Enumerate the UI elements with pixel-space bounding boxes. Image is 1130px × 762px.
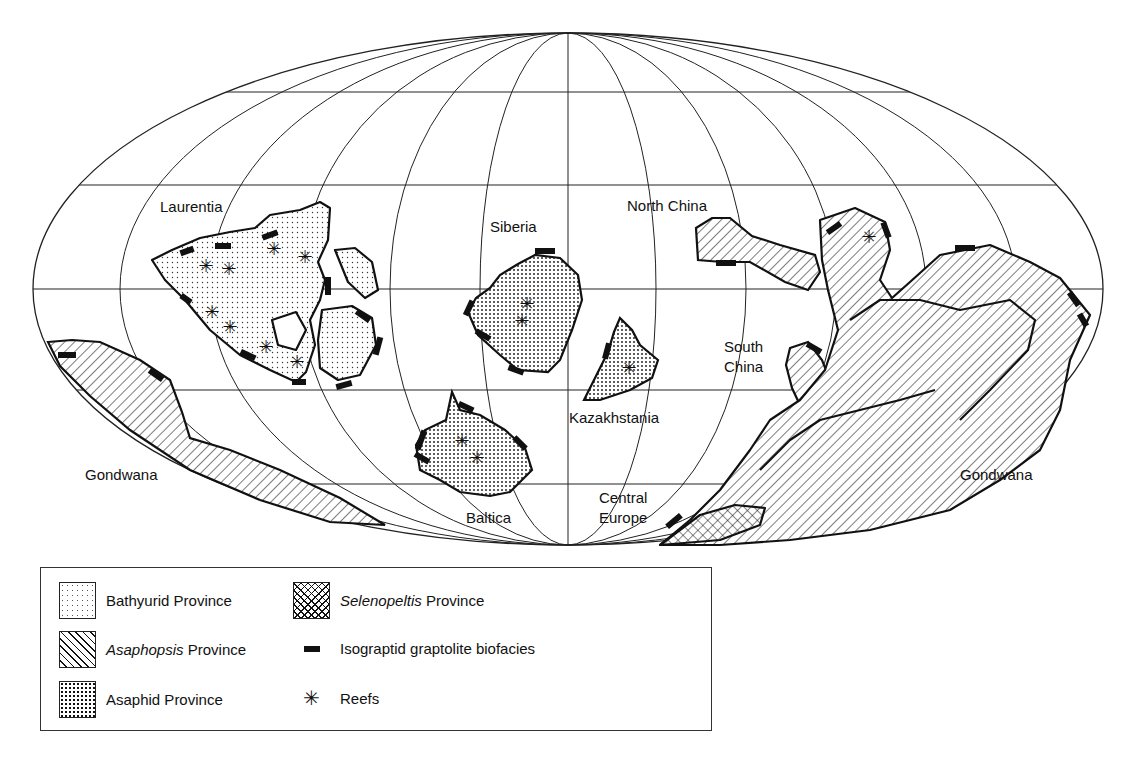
- legend-item-bathyurid: Bathyurid Province: [59, 582, 232, 619]
- legend-item-graptolite: Isograptid graptolite biofacies: [293, 640, 535, 657]
- reef-asterisk-icon: ✳: [303, 688, 320, 708]
- label-baltica: Baltica: [466, 509, 512, 526]
- label-kazakhstania: Kazakhstania: [569, 409, 660, 426]
- svg-text:✳: ✳: [266, 238, 281, 259]
- map-legend: Bathyurid Province Asaphopsis Province A…: [40, 567, 712, 731]
- svg-text:✳: ✳: [204, 301, 219, 322]
- svg-text:✳: ✳: [454, 430, 469, 451]
- cross-hatch-swatch: [293, 582, 330, 619]
- legend-item-asaphopsis: Asaphopsis Province: [59, 631, 246, 668]
- svg-text:✳: ✳: [221, 258, 236, 279]
- legend-item-reefs: ✳ Reefs: [293, 688, 379, 708]
- diagonal-hatch-swatch: [59, 631, 96, 668]
- north-china-landmass: [696, 218, 820, 290]
- label-siberia: Siberia: [490, 218, 537, 235]
- coarse-dots-swatch: [59, 681, 96, 718]
- svg-text:✳: ✳: [222, 316, 237, 337]
- legend-item-asaphid: Asaphid Province: [59, 681, 223, 718]
- label-laurentia: Laurentia: [160, 198, 223, 215]
- svg-text:✳: ✳: [621, 357, 636, 378]
- graptolite-bar-icon: [304, 646, 320, 652]
- label-south-china-line2: China: [724, 358, 764, 375]
- label-gondwana-west: Gondwana: [85, 466, 158, 483]
- label-central-europe-line1: Central: [599, 489, 647, 506]
- label-south-china-line1: South: [724, 338, 763, 355]
- svg-text:✳: ✳: [198, 255, 213, 276]
- svg-text:✳: ✳: [297, 246, 312, 267]
- svg-text:✳: ✳: [861, 226, 876, 247]
- label-north-china: North China: [627, 197, 708, 214]
- label-gondwana-east: Gondwana: [960, 466, 1033, 483]
- svg-text:✳: ✳: [514, 310, 529, 331]
- label-central-europe-line2: Europe: [599, 509, 647, 526]
- svg-text:✳: ✳: [289, 351, 304, 372]
- legend-item-selenopeltis: Selenopeltis Province: [293, 582, 484, 619]
- svg-text:✳: ✳: [258, 336, 273, 357]
- fine-dots-swatch: [59, 582, 96, 619]
- svg-text:✳: ✳: [469, 447, 484, 468]
